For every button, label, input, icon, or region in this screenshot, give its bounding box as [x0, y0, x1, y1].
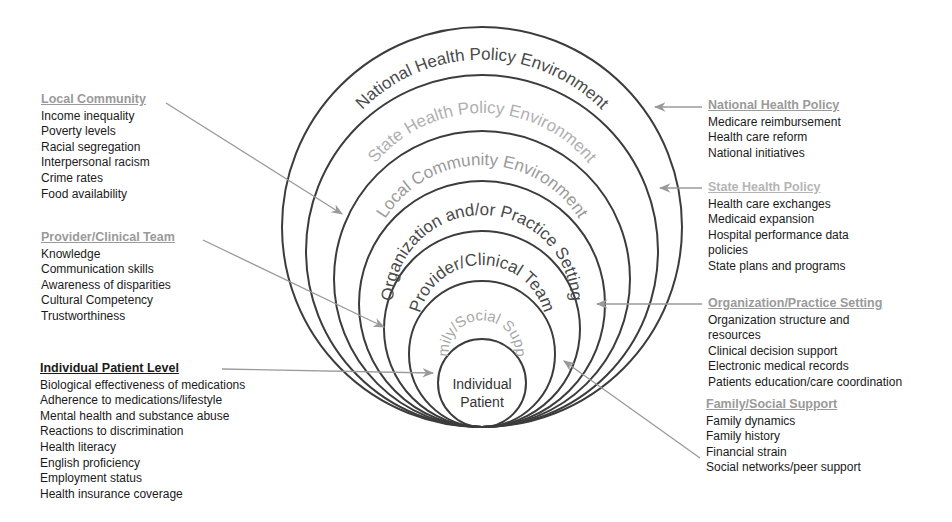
panel-items: Medicare reimbursementHealth care reform… [708, 115, 841, 162]
panel-item: Mental health and substance abuse [40, 409, 245, 425]
panel-provider-team: Provider/Clinical Team KnowledgeCommunic… [41, 230, 175, 325]
family-support-arrow [564, 361, 700, 458]
panel-item: Interpersonal racism [41, 155, 150, 171]
panel-item: Awareness of disparities [41, 278, 175, 294]
panel-heading: National Health Policy [708, 98, 841, 114]
panel-item: Health care exchanges [708, 197, 849, 213]
panel-heading: Family/Social Support [706, 397, 861, 413]
panel-organization-setting: Organization/Practice Setting Organizati… [708, 296, 902, 391]
ring-national [282, 27, 682, 427]
panel-item: Family history [706, 429, 861, 445]
provider-team-arrow [203, 240, 384, 327]
panel-heading: State Health Policy [708, 180, 849, 196]
panel-item: Social networks/peer support [706, 460, 861, 476]
panel-items: Biological effectiveness of medicationsA… [40, 378, 245, 503]
panel-items: Family dynamicsFamily historyFinancial s… [706, 414, 861, 476]
panel-family-support: Family/Social Support Family dynamicsFam… [706, 397, 861, 476]
panel-items: KnowledgeCommunication skillsAwareness o… [41, 247, 175, 325]
level-rings [282, 27, 682, 427]
panel-state-policy: State Health Policy Health care exchange… [708, 180, 849, 275]
panel-item: Clinical decision support [708, 344, 902, 360]
panel-item: Hospital performance data [708, 228, 849, 244]
panel-item: Health insurance coverage [40, 487, 245, 503]
ring-label-organization: Organization and/or Practice Setting [378, 200, 586, 302]
panel-item: Patients education/care coordination [708, 375, 902, 391]
panel-heading: Local Community [41, 92, 150, 108]
panel-item: Income inequality [41, 109, 150, 125]
panel-individual-patient: Individual Patient Level Biological effe… [40, 361, 245, 502]
panel-item: Health care reform [708, 130, 841, 146]
individual-patient-arrow [222, 369, 433, 373]
panel-item: Medicare reimbursement [708, 115, 841, 131]
center-label-line-1: Individual [452, 376, 511, 392]
panel-items: Health care exchangesMedicaid expansionH… [708, 197, 849, 275]
panel-item: Communication skills [41, 262, 175, 278]
panel-item: Financial strain [706, 445, 861, 461]
panel-item: Adherence to medications/lifestyle [40, 393, 245, 409]
panel-item: Trustworthiness [41, 309, 175, 325]
panel-item: National initiatives [708, 146, 841, 162]
panel-items: Income inequalityPoverty levelsRacial se… [41, 109, 150, 203]
center-label-line-2: Patient [460, 394, 504, 410]
panel-item: English proficiency [40, 456, 245, 472]
panel-heading: Individual Patient Level [40, 361, 245, 377]
panel-item: resources [708, 328, 902, 344]
panel-items: Organization structure andresourcesClini… [708, 313, 902, 391]
panel-item: Reactions to discrimination [40, 424, 245, 440]
panel-item: Biological effectiveness of medications [40, 378, 245, 394]
panel-item: Medicaid expansion [708, 212, 849, 228]
panel-item: Crime rates [41, 171, 150, 187]
panel-item: Health literacy [40, 440, 245, 456]
panel-heading: Provider/Clinical Team [41, 230, 175, 246]
panel-heading: Organization/Practice Setting [708, 296, 902, 312]
panel-item: Electronic medical records [708, 359, 902, 375]
panel-item: Knowledge [41, 247, 175, 263]
panel-item: policies [708, 243, 849, 259]
panel-item: Poverty levels [41, 124, 150, 140]
local-community-arrow [166, 103, 342, 214]
panel-item: Employment status [40, 471, 245, 487]
panel-item: Family dynamics [706, 414, 861, 430]
panel-local-community: Local Community Income inequalityPoverty… [41, 92, 150, 202]
panel-item: Organization structure and [708, 313, 902, 329]
panel-national-policy: National Health Policy Medicare reimburs… [708, 98, 841, 161]
panel-item: Food availability [41, 187, 150, 203]
individual-patient-center-label: Individual Patient [452, 376, 511, 410]
panel-item: State plans and programs [708, 259, 849, 275]
panel-item: Racial segregation [41, 140, 150, 156]
panel-item: Cultural Competency [41, 293, 175, 309]
